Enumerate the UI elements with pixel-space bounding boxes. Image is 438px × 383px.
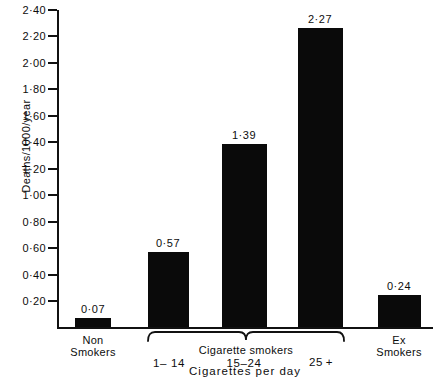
y-tick-1-20: [48, 168, 57, 170]
y-tick-label-1-20: 1·20: [22, 164, 46, 175]
bar-value-25-plus: 2·27: [290, 14, 350, 25]
y-tick-label-1-80: 1·80: [22, 84, 46, 95]
category-label-ex-smokers-line2: Smokers: [364, 346, 434, 358]
bar-ex-smokers: [378, 295, 421, 327]
cigarette-smokers-brace: [146, 329, 346, 343]
y-tick-label-1-00: 1·00: [22, 190, 46, 201]
bar-non-smokers: [75, 318, 111, 327]
y-tick-1-00: [48, 194, 57, 196]
y-tick-label-2-00: 2·00: [22, 58, 46, 69]
bar-value-1-14: 0·57: [138, 238, 198, 249]
bar-chart-figure: Deaths/1000/year 2·40 2·20 2·00 1·80 1·6…: [0, 0, 438, 383]
y-tick-1-60: [48, 115, 57, 117]
bar-value-non-smokers: 0·07: [63, 304, 123, 315]
y-tick-1-80: [48, 88, 57, 90]
category-label-ex-smokers-line1: Ex: [364, 334, 434, 346]
bar-value-ex-smokers: 0·24: [369, 281, 429, 292]
y-tick-label-0-60: 0·60: [22, 243, 46, 254]
y-tick-0-40: [48, 274, 57, 276]
bar-value-15-24: 1·39: [214, 130, 274, 141]
y-tick-2-40: [48, 9, 57, 11]
bar-1-14: [148, 252, 189, 327]
y-tick-label-1-40: 1·40: [22, 137, 46, 148]
y-tick-label-2-40: 2·40: [22, 5, 46, 16]
bar-15-24: [222, 144, 267, 327]
x-axis-title: Cigarettes per day: [57, 365, 433, 377]
y-tick-0-20: [48, 300, 57, 302]
y-tick-1-40: [48, 141, 57, 143]
category-label-ex-smokers: Ex Smokers: [364, 334, 434, 358]
y-tick-label-0-20: 0·20: [22, 296, 46, 307]
y-axis-line: [57, 10, 59, 328]
y-tick-0-60: [48, 247, 57, 249]
category-label-non-smokers-line2: Smokers: [58, 346, 128, 358]
y-tick-label-2-20: 2·20: [22, 31, 46, 42]
category-label-non-smokers: Non Smokers: [58, 334, 128, 358]
y-tick-label-0-40: 0·40: [22, 270, 46, 281]
category-label-non-smokers-line1: Non: [58, 334, 128, 346]
y-tick-2-00: [48, 62, 57, 64]
bar-25-plus: [298, 28, 343, 327]
cigarette-smokers-label: Cigarette smokers: [186, 345, 306, 356]
y-tick-label-0-80: 0·80: [22, 217, 46, 228]
y-tick-0-80: [48, 221, 57, 223]
y-tick-label-1-60: 1·60: [22, 111, 46, 122]
y-tick-2-20: [48, 35, 57, 37]
